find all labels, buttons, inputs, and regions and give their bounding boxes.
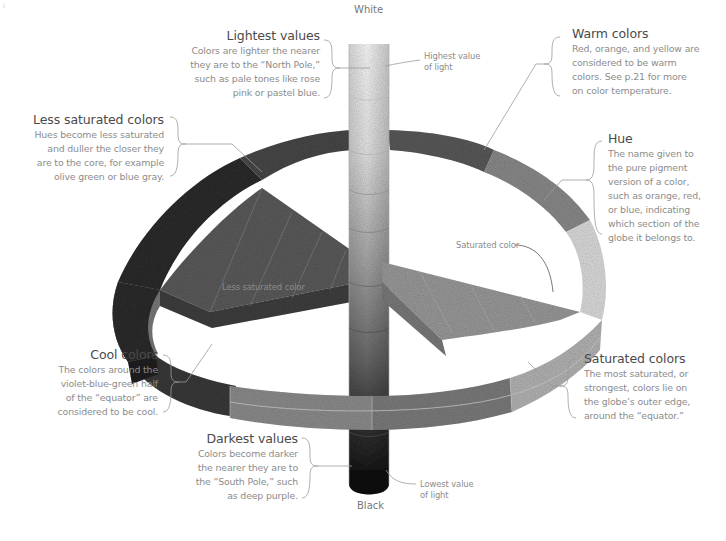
callout-line: Red, orange, and yellow are [572, 42, 722, 56]
ring-segment-front-mid-right [372, 378, 512, 430]
callout-line: the nearer they are to [148, 461, 298, 475]
pole-label-white: White [354, 4, 383, 15]
ring-segment-back-right [388, 130, 494, 172]
callout-line: colors. See p.21 for more [572, 70, 722, 84]
color-globe-diagram: i [0, 0, 726, 541]
leader-lowest-value [386, 470, 416, 484]
callout-title: Lightest values [150, 28, 320, 44]
callout-title: Saturated colors [584, 351, 726, 367]
column-bottom-cap [349, 470, 389, 495]
callout-darkest-values: Darkest values Colors become darker the … [148, 431, 298, 503]
label-line: of light [424, 62, 480, 73]
brace-warm-colors [544, 37, 560, 96]
callout-line: of the “equator” are [8, 391, 158, 405]
callout-line: pink or pastel blue. [150, 86, 320, 100]
brace-darkest-values [302, 438, 318, 498]
label-line: Lowest value [420, 479, 474, 490]
callout-saturated-colors: Saturated colors The most saturated, or … [584, 351, 726, 423]
callout-title: Warm colors [572, 26, 722, 42]
callout-line: or blue, indicating [608, 203, 726, 217]
leader-saturated-color [515, 245, 553, 292]
callout-line: considered to be warm [572, 56, 722, 70]
brace-less-saturated [170, 117, 186, 176]
label-lowest-value: Lowest value of light [420, 479, 474, 501]
callout-title: Hue [608, 131, 726, 147]
callout-line: the “South Pole,” such [148, 475, 298, 489]
callout-line: globe it belongs to. [608, 231, 726, 245]
callout-title: Cool colors [8, 347, 158, 363]
callout-title: Less saturated colors [4, 112, 164, 128]
callout-line: they are to the “North Pole,” [150, 58, 320, 72]
callout-line: around the “equator.” [584, 409, 726, 423]
leader-highest-value [385, 60, 420, 66]
callout-less-saturated-colors: Less saturated colors Hues become less s… [4, 112, 164, 184]
callout-line: and duller the closer they [4, 142, 164, 156]
label-highest-value: Highest value of light [424, 51, 480, 73]
ring-front [230, 320, 602, 430]
callout-line: which section of the [608, 217, 726, 231]
ring-segment-back-right-warm [484, 150, 590, 232]
callout-line: The name given to [608, 147, 726, 161]
callout-title: Darkest values [148, 431, 298, 447]
callout-line: The most saturated, or [584, 367, 726, 381]
callout-line: considered to be cool. [8, 405, 158, 419]
callout-line: such as pale tones like rose [150, 72, 320, 86]
callout-hue: Hue The name given to the pure pigment v… [608, 131, 726, 245]
callout-line: Colors become darker [148, 447, 298, 461]
callout-line: the globe’s outer edge, [584, 395, 726, 409]
callout-line: on color temperature. [572, 84, 722, 98]
label-line: Highest value [424, 51, 480, 62]
pole-label-black: Black [357, 500, 384, 511]
callout-cool-colors: Cool colors The colors around the violet… [8, 347, 158, 419]
callout-lightest-values: Lightest values Colors are lighter the n… [150, 28, 320, 100]
ring-segment-back-left [240, 130, 352, 180]
callout-line: strongest, colors lie on [584, 381, 726, 395]
callout-line: are to the core, for example [4, 156, 164, 170]
label-less-saturated-color: Less saturated color [222, 282, 305, 293]
callout-line: olive green or blue gray. [4, 170, 164, 184]
callout-line: the pure pigment [608, 161, 726, 175]
callout-line: Hues become less saturated [4, 128, 164, 142]
label-line: of light [420, 490, 474, 501]
callout-line: Colors are lighter the nearer [150, 44, 320, 58]
callout-warm-colors: Warm colors Red, orange, and yellow are … [572, 26, 722, 98]
label-saturated-color: Saturated color [456, 240, 519, 251]
callout-line: such as orange, red, [608, 189, 726, 203]
callout-line: violet-blue-green half [8, 377, 158, 391]
brace-lightest-values [324, 40, 340, 98]
callout-line: version of a color, [608, 175, 726, 189]
callout-line: as deep purple. [148, 489, 298, 503]
ring-segment-right-pale [566, 220, 606, 320]
callout-line: The colors around the [8, 363, 158, 377]
